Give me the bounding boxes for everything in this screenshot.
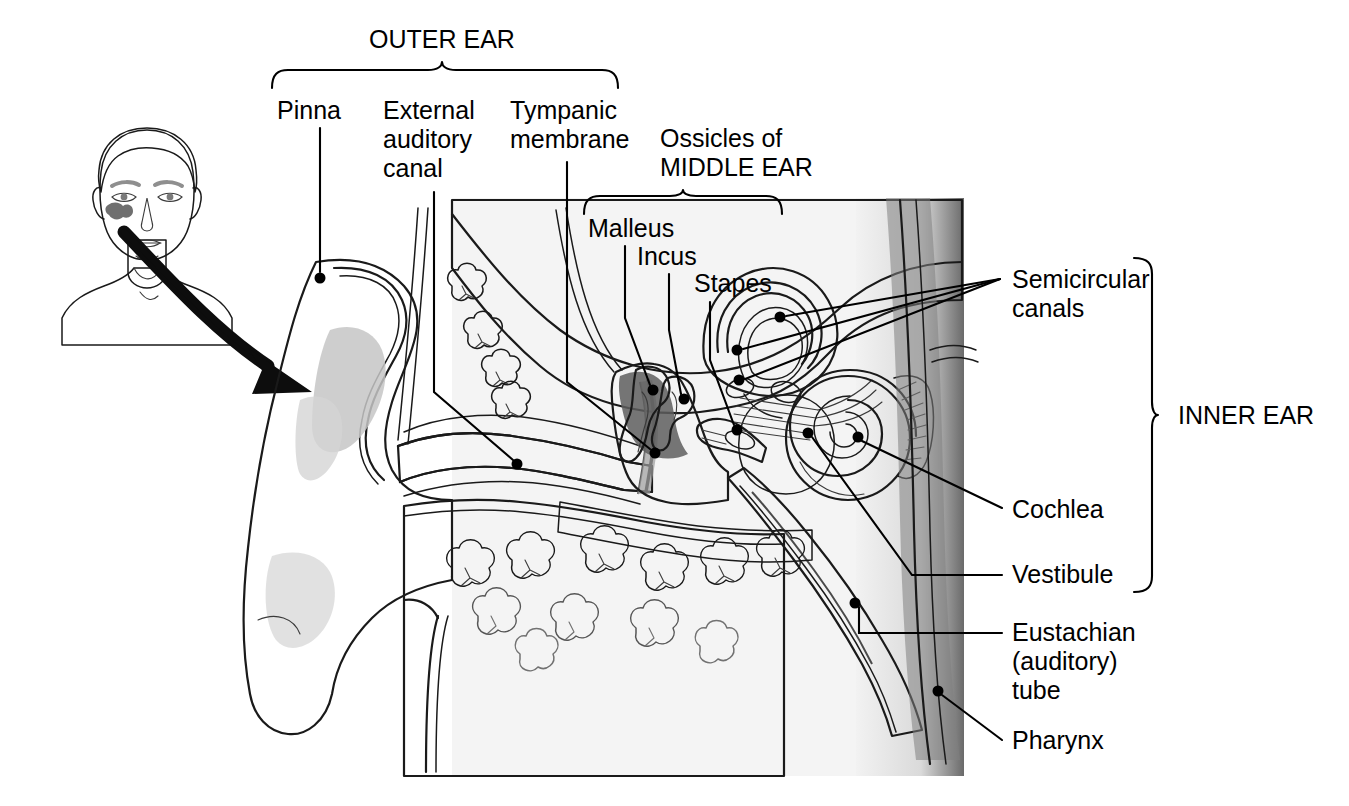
callout-label-vestibule: Vestibule [1012, 560, 1113, 588]
callout-label-eustachian-tube-line1: Eustachian [1012, 618, 1136, 646]
leader-dot-semicircular-canal-1 [775, 312, 786, 323]
leader-dot-pinna [315, 273, 326, 284]
group-label-middle-ear: MIDDLE EAR [660, 153, 813, 181]
ear-anatomy-figure: OUTER EAR Ossicles of MIDDLE EAR INNER E… [0, 0, 1349, 806]
leader-dot-semicircular-canal-3 [734, 375, 745, 386]
brace-inner-ear [1134, 258, 1158, 592]
callout-label-incus: Incus [637, 242, 697, 270]
callout-label-eustachian-tube-line3: tube [1012, 676, 1061, 704]
callout-label-tympanic-membrane-line1: Tympanic [510, 96, 617, 124]
leader-dot-vestibule [803, 428, 814, 439]
callout-label-external-auditory-canal-line2: auditory [383, 125, 472, 153]
ossicles-of-label: Ossicles of [660, 124, 782, 152]
callout-label-cochlea: Cochlea [1012, 495, 1104, 523]
group-label-outer-ear: OUTER EAR [369, 25, 515, 53]
leader-dot-stapes [732, 425, 743, 436]
callout-label-pharynx: Pharynx [1012, 726, 1104, 754]
leader-dot-semicircular-canal-2 [732, 345, 743, 356]
pinna-group [244, 260, 452, 734]
leader-dot-pharynx [933, 686, 944, 697]
ear-highlight-mark [105, 202, 133, 219]
leader-dot-malleus [648, 385, 659, 396]
callout-label-malleus: Malleus [588, 214, 674, 242]
callout-label-semicircular-canals-line2: canals [1012, 294, 1084, 322]
brace-outer-ear [272, 62, 618, 88]
ear-diagram-canvas: OUTER EAR Ossicles of MIDDLE EAR INNER E… [0, 0, 1349, 806]
callout-label-semicircular-canals-line1: Semicircular [1012, 265, 1150, 293]
callout-label-pinna: Pinna [277, 96, 341, 124]
leader-dot-external-auditory-canal [512, 459, 523, 470]
leader-dot-tympanic-membrane [650, 448, 661, 459]
group-label-inner-ear: INNER EAR [1178, 401, 1314, 429]
magnification-arrow [124, 232, 312, 394]
leader-dot-incus [679, 394, 690, 405]
callout-label-eustachian-tube-line2: (auditory) [1012, 647, 1118, 675]
callout-label-tympanic-membrane-line2: membrane [510, 125, 630, 153]
callout-label-external-auditory-canal-line1: External [383, 96, 475, 124]
leader-dot-eustachian-tube [850, 598, 861, 609]
callout-label-external-auditory-canal-line3: canal [383, 154, 443, 182]
leader-dot-cochlea [853, 432, 864, 443]
callout-label-stapes: Stapes [694, 269, 772, 297]
